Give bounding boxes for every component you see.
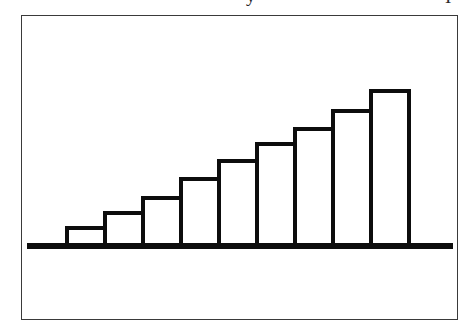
bar-3 <box>143 198 181 246</box>
cropped-text-remnants: y I <box>0 0 473 13</box>
chart-plot-area <box>22 16 459 321</box>
bars-group <box>67 91 409 246</box>
bar-9 <box>371 91 409 246</box>
bar-7 <box>295 129 333 246</box>
bar-6 <box>257 144 295 246</box>
bar-chart <box>22 16 459 321</box>
figure-page: y I <box>0 0 473 331</box>
bar-4 <box>181 179 219 246</box>
bar-2 <box>105 213 143 246</box>
bar-5 <box>219 161 257 246</box>
descender-remnant-left: y <box>246 0 256 5</box>
descender-remnant-right: I <box>445 0 451 6</box>
figure-border <box>21 15 458 320</box>
bar-8 <box>333 111 371 246</box>
